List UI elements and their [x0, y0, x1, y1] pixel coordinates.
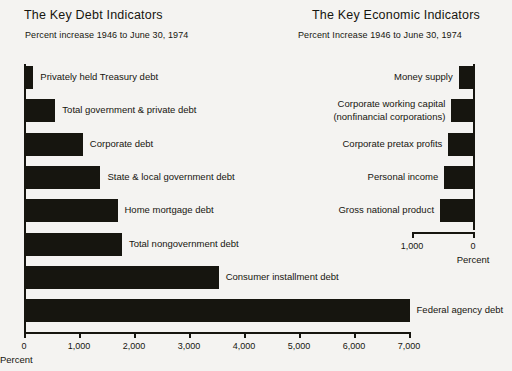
- debt-bar: [24, 166, 100, 189]
- debt-axis-tick-label: 2,000: [123, 341, 146, 351]
- econ-bar: [448, 133, 473, 156]
- debt-axis-tick: [244, 332, 246, 338]
- debt-axis-tick-label: 3,000: [178, 341, 201, 351]
- econ-axis-tick-label: 0: [470, 241, 475, 251]
- debt-bar: [24, 99, 55, 122]
- debt-bar: [24, 199, 118, 222]
- debt-axis-tick: [189, 332, 191, 338]
- economic-indicators-panel: The Key Economic Indicators Percent Incr…: [290, 0, 512, 371]
- econ-bar: [444, 166, 473, 189]
- debt-bar-label: Home mortgage debt: [125, 204, 214, 215]
- econ-bar-row: Personal income: [290, 164, 512, 197]
- econ-bar-row: Money supply: [290, 64, 512, 97]
- dual-bar-chart-figure: The Key Debt Indicators Percent increase…: [0, 0, 512, 371]
- econ-bar: [451, 99, 473, 122]
- debt-panel-subtitle: Percent increase 1946 to June 30, 1974: [25, 30, 188, 40]
- debt-bar: [24, 233, 122, 256]
- econ-bar-row: Gross national product: [290, 197, 512, 230]
- econ-axis-title: Percent: [457, 254, 490, 265]
- econ-bar-label: Corporate pretax profits: [290, 138, 442, 149]
- econ-axis-tick-label: 1,000: [401, 241, 424, 251]
- debt-axis-tick-label: 0: [21, 341, 26, 351]
- econ-axis-tick: [473, 232, 475, 238]
- econ-bar: [459, 66, 473, 89]
- debt-axis-tick: [24, 332, 26, 338]
- debt-bar-label: Privately held Treasury debt: [40, 71, 158, 82]
- econ-bar-row: Corporate working capital(nonfinancial c…: [290, 97, 512, 130]
- debt-axis-tick: [134, 332, 136, 338]
- debt-axis-tick-label: 4,000: [233, 341, 256, 351]
- debt-bar: [24, 133, 83, 156]
- econ-bar-label: Corporate working capital(nonfinancial c…: [290, 98, 445, 123]
- econ-axis-line: [413, 232, 474, 234]
- debt-bar-label: Total nongovernment debt: [129, 238, 239, 249]
- econ-axis-tick: [412, 232, 414, 238]
- econ-bar: [440, 199, 473, 222]
- econ-bar-label: Money supply: [290, 71, 453, 82]
- debt-axis-tick: [79, 332, 81, 338]
- debt-axis-title: Percent: [0, 354, 33, 365]
- econ-plot-area: Money supplyCorporate working capital(no…: [290, 64, 512, 230]
- debt-bar-label: Total government & private debt: [62, 104, 196, 115]
- econ-panel-subtitle: Percent Increase 1946 to June 30, 1974: [298, 30, 462, 40]
- econ-bar-label: Gross national product: [290, 204, 434, 215]
- debt-panel-title: The Key Debt Indicators: [24, 8, 163, 22]
- econ-panel-title: The Key Economic Indicators: [312, 8, 480, 22]
- econ-x-axis: 1,0000 Percent: [290, 232, 512, 272]
- econ-bar-row: Corporate pretax profits: [290, 131, 512, 164]
- debt-axis-tick-label: 1,000: [68, 341, 91, 351]
- debt-bar: [24, 66, 33, 89]
- econ-bar-label: Personal income: [290, 171, 438, 182]
- debt-bar: [24, 266, 219, 289]
- debt-bar-label: Corporate debt: [90, 138, 153, 149]
- debt-bar-label: State & local government debt: [107, 171, 234, 182]
